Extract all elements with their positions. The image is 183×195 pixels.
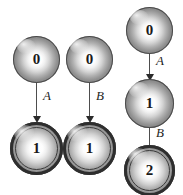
state-label: 0 (33, 52, 41, 67)
state-node-middle-start: 0 (66, 36, 113, 83)
transition-arrow-right-a (149, 54, 150, 81)
transition-label-right-b: B (156, 125, 164, 141)
arrow-shaft (36, 83, 37, 116)
state-label: 1 (146, 96, 154, 111)
state-node-middle-end: 1 (63, 122, 116, 175)
state-label: 0 (86, 52, 94, 67)
transition-arrow-left-a (36, 83, 37, 123)
state-node-left-start: 0 (13, 36, 60, 83)
state-label: 2 (146, 163, 154, 178)
state-label: 0 (146, 23, 154, 38)
state-label: 1 (33, 141, 41, 156)
transition-label-right-a: A (156, 53, 164, 69)
transition-arrow-middle-b (89, 83, 90, 123)
transition-label-middle-b: B (96, 88, 104, 104)
arrow-shaft (149, 54, 150, 74)
arrow-shaft (89, 83, 90, 116)
diagram-canvas: 0 A 1 0 B 1 0 A (0, 0, 183, 195)
state-node-right-end: 2 (124, 145, 175, 195)
state-node-left-end: 1 (10, 122, 63, 175)
state-node-right-mid: 1 (125, 79, 174, 128)
state-node-right-start: 0 (126, 7, 173, 54)
transition-label-left-a: A (43, 88, 51, 104)
state-label: 1 (86, 141, 94, 156)
